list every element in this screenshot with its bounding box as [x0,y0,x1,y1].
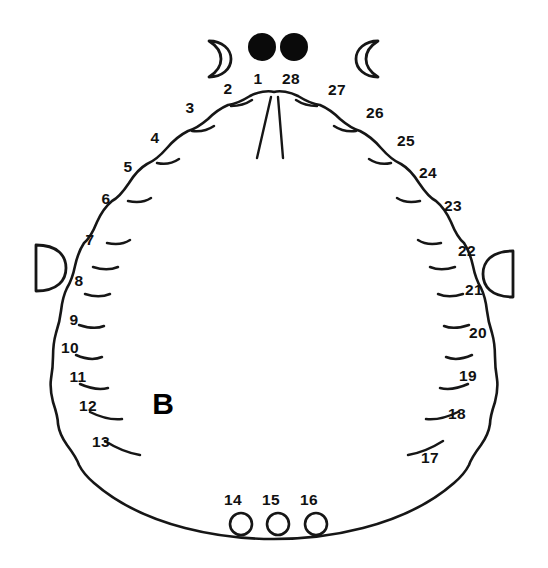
lobe-label-22: 22 [458,242,476,259]
lobe-label-19: 19 [459,367,477,384]
lobe-tick-25 [369,159,391,164]
posterior-circle-14 [230,513,252,535]
lobe-tick-18 [440,384,468,389]
eye-spot-right [280,33,308,61]
half-disc-markers [36,245,513,297]
lobe-tick-5 [128,198,151,202]
specimen-outline-diagram: 1 2 3 4 5 6 7 8 9 10 11 12 13 14 15 16 1… [0,0,548,568]
lobe-label-3: 3 [185,99,194,116]
lobe-ticks-right [296,100,472,455]
lobe-label-4: 4 [150,129,159,146]
half-disc-left-icon [36,245,66,291]
lobe-tick-7 [93,267,118,269]
crescent-right-icon [356,41,378,77]
lobe-label-21: 21 [465,281,483,298]
lobe-tick-6 [107,240,130,244]
lobe-label-5: 5 [123,158,132,175]
lobe-label-13: 13 [92,433,110,450]
lobe-tick-19 [446,355,472,359]
lobe-label-2: 2 [223,80,232,97]
lobe-label-10: 10 [61,339,79,356]
eye-spots [248,33,308,61]
lobe-label-9: 9 [69,311,78,328]
lobe-label-12: 12 [79,397,97,414]
lobe-label-24: 24 [419,164,437,181]
lobe-tick-10 [76,355,102,359]
lobe-tick-8 [85,294,110,296]
lobe-tick-20 [444,325,469,328]
lobe-tick-22 [430,267,455,269]
lobe-label-18: 18 [448,405,466,422]
lobe-tick-9 [79,325,104,328]
half-disc-right-icon [483,251,513,297]
lobe-label-11: 11 [69,368,86,385]
posterior-circles [230,513,327,535]
body-outline [51,91,498,539]
lobe-tick-24 [397,198,420,202]
median-cleft [257,97,283,158]
lobe-label-23: 23 [444,197,462,214]
crescent-left-icon [209,41,231,77]
body-outline-path [51,91,498,539]
cleft-line-right [278,97,283,158]
lobe-tick-4 [157,159,179,164]
lobe-label-14: 14 [224,491,242,508]
lobe-label-17: 17 [421,449,439,466]
panel-letter-b: B [152,387,174,420]
cleft-line-left [257,97,271,158]
eye-spot-left [248,33,276,61]
lobe-tick-23 [418,240,441,244]
posterior-circle-16 [305,513,327,535]
lobe-label-6: 6 [101,190,110,207]
lobe-tick-13 [105,441,140,455]
lobe-label-20: 20 [469,324,487,341]
lobe-label-16: 16 [300,491,318,508]
lobe-label-15: 15 [262,491,280,508]
lobe-label-7: 7 [85,231,94,248]
lobe-label-28: 28 [282,70,300,87]
figure-panel-b: 1 2 3 4 5 6 7 8 9 10 11 12 13 14 15 16 1… [0,0,548,568]
lobe-label-26: 26 [366,104,384,121]
lobe-label-27: 27 [328,81,346,98]
lobe-label-1: 1 [253,70,262,87]
lobe-label-25: 25 [397,132,415,149]
lobe-number-labels: 1 2 3 4 5 6 7 8 9 10 11 12 13 14 15 16 1… [61,70,487,508]
lobe-label-8: 8 [74,272,83,289]
lobe-tick-21 [438,294,463,296]
posterior-circle-15 [267,513,289,535]
